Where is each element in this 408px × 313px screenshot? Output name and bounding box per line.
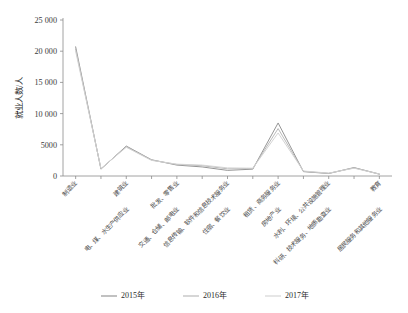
y-tick-label: 10 000 xyxy=(34,110,57,119)
x-tick-label: 交通、仓储、邮电业 xyxy=(136,205,181,250)
chart-canvas: 0500010 00015 00020 00025 000就业人数/人制造业电、… xyxy=(0,0,408,313)
x-tick-label: 房地产业 xyxy=(259,205,282,228)
y-tick-label: 20 000 xyxy=(34,47,57,56)
x-tick-label: 科研、技术服务、地质勘查业 xyxy=(271,205,333,267)
x-tick-label: 建筑业 xyxy=(111,179,130,198)
y-axis-title: 就业人数/人 xyxy=(14,76,24,119)
x-tick-label: 教育 xyxy=(368,179,383,194)
line-chart: 0500010 00015 00020 00025 000就业人数/人制造业电、… xyxy=(0,0,408,313)
x-tick-label: 制造业 xyxy=(60,179,79,198)
series-line-2016年 xyxy=(76,49,380,174)
series-line-2017年 xyxy=(76,51,380,174)
y-tick-label: 25 000 xyxy=(34,16,57,25)
x-tick-label: 电、煤、水生产供应业 xyxy=(82,205,131,254)
legend-label-2016年: 2016年 xyxy=(203,290,227,300)
legend-label-2015年: 2015年 xyxy=(121,290,145,300)
legend-label-2017年: 2017年 xyxy=(285,290,309,300)
y-tick-label: 0 xyxy=(53,172,57,181)
y-tick-label: 15 000 xyxy=(34,78,57,87)
series-line-2015年 xyxy=(76,47,380,174)
y-tick-label: 5000 xyxy=(41,141,57,150)
x-tick-label: 居民服务和其他服务业 xyxy=(335,205,384,254)
